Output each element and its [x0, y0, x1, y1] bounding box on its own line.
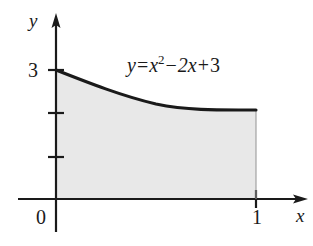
x-axis-label: x	[296, 206, 304, 225]
equation-term1-base: x	[149, 54, 158, 76]
y-axis-label: y	[29, 11, 37, 30]
figure-area-under-parabola: y x 3 0 1 y=x2−2x+3	[0, 0, 313, 246]
x-tick-label-1: 1	[252, 207, 262, 227]
equation-equals-sign: =	[136, 54, 149, 76]
origin-label: 0	[36, 207, 46, 227]
equation-annotation: y=x2−2x+3	[127, 55, 220, 75]
equation-term3: 3	[210, 54, 220, 76]
shaded-area-region	[56, 70, 256, 199]
equation-term1-exponent: 2	[158, 52, 165, 67]
y-tick-label-3: 3	[28, 60, 38, 80]
equation-lhs: y	[127, 54, 136, 76]
plot-canvas	[0, 0, 313, 246]
equation-term3-sign: +	[197, 54, 210, 76]
equation-term2: 2x	[178, 54, 197, 76]
equation-term2-sign: −	[165, 54, 178, 76]
